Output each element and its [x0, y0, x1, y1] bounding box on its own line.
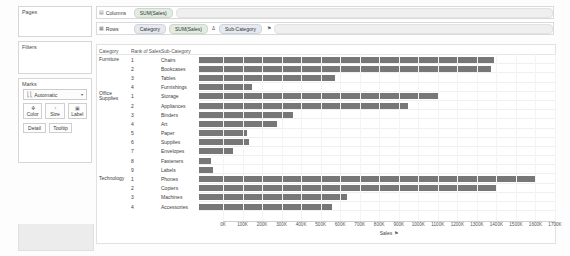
row-plot-cell	[199, 184, 555, 193]
row-plot-cell	[199, 55, 555, 64]
axis-tick-label: 500K	[315, 222, 326, 227]
marks-type-dropdown[interactable]: ⎣⎣ Automatic ▾	[23, 89, 87, 100]
rows-drop-zone[interactable]: Category SUM(Sales) Δ Sub-Category ⚑	[134, 24, 553, 34]
header-sub-category: Sub-Category	[161, 49, 199, 54]
marks-buttons-row-1: ❖ Color ◔ Size ▣ Label	[19, 103, 91, 122]
marks-size-label: Size	[50, 111, 60, 117]
row-rank: 4	[131, 204, 161, 210]
row-plot-cell	[199, 202, 555, 211]
bar-mark[interactable]	[199, 121, 277, 127]
row-category-line: Furniture	[99, 57, 131, 62]
marks-label-label: Label	[71, 111, 83, 117]
row-sub-category: Accessories	[161, 204, 199, 210]
bar-mark[interactable]	[199, 158, 211, 164]
bar-mark[interactable]	[199, 112, 293, 118]
chart-row[interactable]: 3Machines	[97, 193, 555, 202]
sort-icon-axis[interactable]: ⚑	[394, 231, 398, 236]
bar-mark[interactable]	[199, 185, 497, 191]
axis-title: Sales⚑	[223, 230, 555, 236]
row-rank: 8	[131, 158, 161, 164]
marks-label-button[interactable]: ▣ Label	[68, 103, 87, 119]
row-plot-cell	[199, 156, 555, 165]
row-rank: 4	[131, 84, 161, 90]
row-plot-cell	[199, 110, 555, 119]
pill-rows-category[interactable]: Category	[134, 24, 166, 34]
pages-drop-zone[interactable]	[19, 16, 91, 36]
marks-detail-button[interactable]: Detail	[23, 123, 46, 133]
marks-card-title: Marks	[19, 79, 91, 88]
axis-tick-label: 1000K	[412, 222, 425, 227]
chart-row[interactable]: 3Binders	[97, 110, 555, 119]
chart-row[interactable]: 4Accessories	[97, 202, 555, 211]
row-category-line: Technology	[99, 176, 131, 181]
marks-tooltip-button[interactable]: Tooltip	[49, 123, 72, 133]
axis-tick-label: 700K	[354, 222, 365, 227]
row-sub-category: Bookcases	[161, 66, 199, 72]
bar-mark[interactable]	[199, 194, 347, 200]
chart-row[interactable]: 6Supplies	[97, 138, 555, 147]
row-category-line: Supplies	[99, 96, 131, 101]
axis-tick-label: 1400K	[490, 222, 503, 227]
chart-row[interactable]: Furniture1Chairs	[97, 55, 555, 64]
row-rank: 7	[131, 148, 161, 154]
bar-mark[interactable]	[199, 93, 438, 99]
row-plot-cell	[199, 101, 555, 110]
bar-mark[interactable]	[199, 103, 408, 109]
row-rank: 4	[131, 121, 161, 127]
row-sub-category: Binders	[161, 112, 199, 118]
header-category: Category	[97, 49, 131, 54]
filters-card[interactable]: Filters	[18, 41, 92, 74]
left-panel-bottom-area	[18, 224, 94, 251]
chart-row[interactable]: 9Labels	[97, 165, 555, 174]
row-rank: 1	[131, 176, 161, 182]
bar-mark[interactable]	[199, 204, 332, 210]
rows-shelf[interactable]: ▦ Rows Category SUM(Sales) Δ Sub-Categor…	[96, 22, 554, 35]
chart-row[interactable]: 4Furnishings	[97, 83, 555, 92]
row-plot-cell	[199, 174, 555, 183]
chart-row[interactable]: 8Fasteners	[97, 156, 555, 165]
marks-color-label: Color	[27, 111, 39, 117]
pill-rows-sub-category[interactable]: Sub-Category	[219, 24, 262, 34]
pill-rows-sum-sales[interactable]: SUM(Sales)	[169, 24, 208, 34]
rows-empty-track[interactable]	[274, 24, 553, 34]
axis-tick-label: 0K	[220, 222, 226, 227]
sort-icon-rows[interactable]: ⚑	[267, 26, 271, 31]
marks-color-button[interactable]: ❖ Color	[23, 103, 42, 119]
chart-row[interactable]: 3Tables	[97, 73, 555, 82]
row-category: Furniture	[97, 57, 131, 62]
bar-mark[interactable]	[199, 139, 249, 145]
marks-card-empty-area[interactable]	[19, 136, 91, 162]
bar-mark[interactable]	[199, 57, 494, 63]
chart-row[interactable]: 2Copiers	[97, 184, 555, 193]
chart-row[interactable]: OfficeSupplies1Storage	[97, 92, 555, 101]
bar-mark[interactable]	[199, 148, 233, 154]
columns-icon: ▤	[99, 10, 104, 15]
bar-mark[interactable]	[199, 66, 491, 72]
chart-rows: Furniture1Chairs2Bookcases3Tables4Furnis…	[97, 55, 555, 211]
row-rank: 1	[131, 57, 161, 63]
bar-mark[interactable]	[199, 167, 213, 173]
chart-row[interactable]: 2Bookcases	[97, 64, 555, 73]
bar-mark[interactable]	[199, 130, 247, 136]
axis-tick-label: 800K	[374, 222, 385, 227]
chart-row[interactable]: 5Paper	[97, 129, 555, 138]
columns-shelf[interactable]: ▤ Columns SUM(Sales)	[96, 6, 554, 19]
chart-row[interactable]: Technology1Phones	[97, 174, 555, 183]
chart-row[interactable]: 7Envelopes	[97, 147, 555, 156]
marks-size-button[interactable]: ◔ Size	[45, 103, 64, 119]
bar-mark[interactable]	[199, 84, 252, 90]
filters-drop-zone[interactable]	[19, 51, 91, 73]
axis-tick-label: 400K	[296, 222, 307, 227]
bar-mark[interactable]	[199, 176, 536, 182]
bar-mark[interactable]	[199, 75, 335, 81]
pill-rows-sub-category-label: Sub-Category	[225, 26, 256, 32]
row-category: Technology	[97, 176, 131, 181]
row-rank: 6	[131, 139, 161, 145]
chart-row[interactable]: 4Art	[97, 119, 555, 128]
header-rank-of-sales: Rank of Sales	[131, 49, 161, 54]
columns-drop-zone[interactable]: SUM(Sales)	[134, 8, 553, 18]
pages-card[interactable]: Pages	[18, 6, 92, 37]
chart-row[interactable]: 2Appliances	[97, 101, 555, 110]
columns-empty-track[interactable]	[176, 8, 553, 18]
pill-columns-sum-sales[interactable]: SUM(Sales)	[134, 8, 173, 18]
